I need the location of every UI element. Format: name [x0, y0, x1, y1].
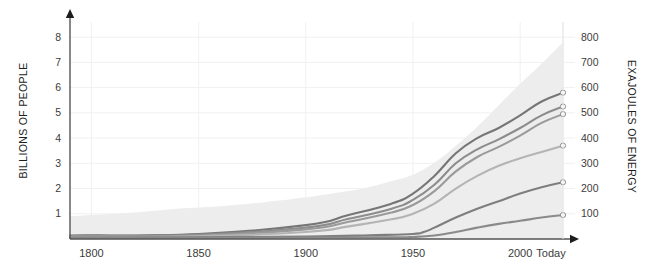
right-tick-400: 400	[581, 132, 599, 144]
x-tick-1800: 1800	[79, 247, 103, 259]
x-tick-today: Today	[536, 247, 566, 259]
right-tick-500: 500	[581, 106, 599, 118]
left-tick-1: 1	[55, 207, 61, 219]
left-tick-7: 7	[55, 56, 61, 68]
left-tick-8: 8	[55, 31, 61, 43]
right-tick-100: 100	[581, 207, 599, 219]
population-area	[70, 42, 563, 239]
energy-population-chart: 1234567810020030040050060070080018001850…	[0, 0, 651, 271]
right-axis-tick-labels: 100200300400500600700800	[581, 31, 599, 220]
x-tick-2000: 2000	[508, 247, 532, 259]
right-tick-800: 800	[581, 31, 599, 43]
left-axis-title: BILLIONS OF PEOPLE	[17, 62, 29, 178]
right-tick-300: 300	[581, 157, 599, 169]
x-axis-tick-labels: 18001850190019502000Today	[79, 247, 566, 259]
left-tick-4: 4	[55, 132, 61, 144]
left-tick-2: 2	[55, 182, 61, 194]
left-tick-6: 6	[55, 81, 61, 93]
chart-canvas: 1234567810020030040050060070080018001850…	[0, 0, 651, 271]
right-tick-200: 200	[581, 182, 599, 194]
x-tick-1850: 1850	[186, 247, 210, 259]
right-tick-700: 700	[581, 56, 599, 68]
left-tick-5: 5	[55, 106, 61, 118]
left-tick-3: 3	[55, 157, 61, 169]
x-tick-1900: 1900	[294, 247, 318, 259]
x-tick-1950: 1950	[401, 247, 425, 259]
right-tick-600: 600	[581, 81, 599, 93]
right-axis-title: EXAJOULES OF ENERGY	[626, 60, 638, 193]
left-axis-tick-labels: 12345678	[55, 31, 61, 220]
